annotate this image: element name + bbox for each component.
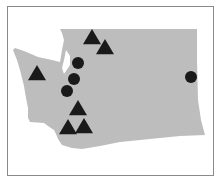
circle-marker: [185, 71, 197, 83]
circle-marker: [61, 85, 73, 97]
washington-map: [0, 0, 222, 182]
circle-marker: [68, 73, 80, 85]
circle-marker: [72, 57, 84, 69]
